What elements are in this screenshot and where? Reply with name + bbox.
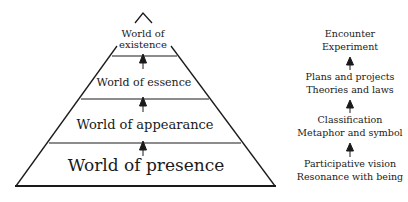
label-line: existence (119, 40, 167, 51)
ladder-line: Classification (297, 114, 402, 127)
arrow-up-icon (347, 100, 354, 113)
label-line: World of (119, 29, 167, 40)
ladder-line: Plans and projects (306, 71, 395, 84)
ladder-line: Encounter (322, 28, 378, 41)
ladder-line: Experiment (322, 41, 378, 54)
arrow-up-icon (347, 57, 354, 70)
level-appearance-label: World of appearance (76, 118, 213, 132)
level-essence-label: World of essence (97, 77, 192, 89)
ladder-group-plans: Plans and projects Theories and laws (306, 71, 395, 96)
level-presence-label: World of presence (68, 157, 225, 175)
ladder-line: Resonance with being (297, 171, 403, 184)
ladder-group-classification: Classification Metaphor and symbol (297, 114, 402, 139)
ladder-group-encounter: Encounter Experiment (322, 28, 378, 53)
arrow-up-icon (347, 143, 354, 157)
pyramid-apex (135, 13, 152, 23)
ladder-group-participative: Participative vision Resonance with bein… (297, 158, 403, 183)
ladder-line: Metaphor and symbol (297, 127, 402, 140)
ladder-line: Participative vision (297, 158, 403, 171)
level-existence-label: World of existence (119, 29, 167, 50)
ladder-line: Theories and laws (306, 84, 395, 97)
